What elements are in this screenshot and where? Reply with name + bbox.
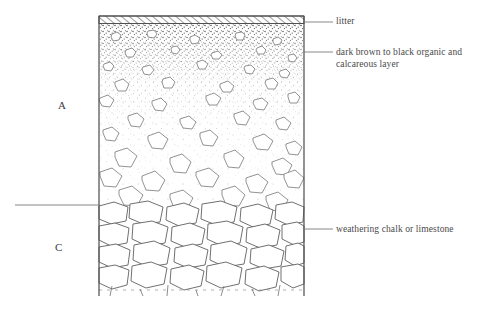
- callout-label-litter: litter: [336, 16, 355, 28]
- callout-leader-lines: [304, 22, 333, 229]
- litter-layer: [99, 16, 304, 24]
- horizon-label-c: C: [55, 241, 63, 253]
- horizon-label-a: A: [58, 99, 66, 111]
- c-horizon-chalk-blocks: [99, 201, 304, 291]
- callout-label-chalk: weathering chalk or limestone: [336, 224, 454, 236]
- figure-canvas: A C litter dark brown to black organic a…: [0, 0, 494, 312]
- callout-label-organic: dark brown to black organic and calcareo…: [336, 47, 462, 70]
